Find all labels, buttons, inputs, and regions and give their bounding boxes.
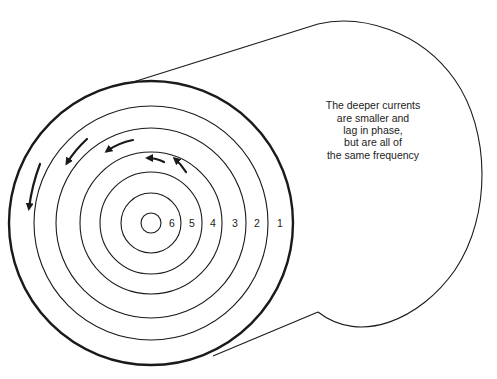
caption-line-4: but are all of xyxy=(344,136,402,148)
core-circle xyxy=(141,213,161,233)
ring-label-3: 3 xyxy=(232,217,238,229)
concentric-rings xyxy=(9,81,293,365)
ring-label-5: 5 xyxy=(189,217,195,229)
ring-label-1: 1 xyxy=(277,217,283,229)
diagram-canvas: 6 5 4 3 2 1 The deeper currents are smal… xyxy=(0,0,497,379)
caption-line-5: the same frequency xyxy=(327,149,420,161)
cylinder-back-arc xyxy=(318,21,482,327)
caption: The deeper currents are smaller and lag … xyxy=(326,99,421,161)
ring-label-6: 6 xyxy=(169,217,175,229)
ring-label-2: 2 xyxy=(254,217,260,229)
cylinder-top-edge xyxy=(130,24,318,83)
caption-line-2: are smaller and xyxy=(337,112,410,124)
caption-line-1: The deeper currents xyxy=(326,99,421,111)
caption-line-3: lag in phase, xyxy=(343,124,403,136)
ring-label-4: 4 xyxy=(210,217,216,229)
